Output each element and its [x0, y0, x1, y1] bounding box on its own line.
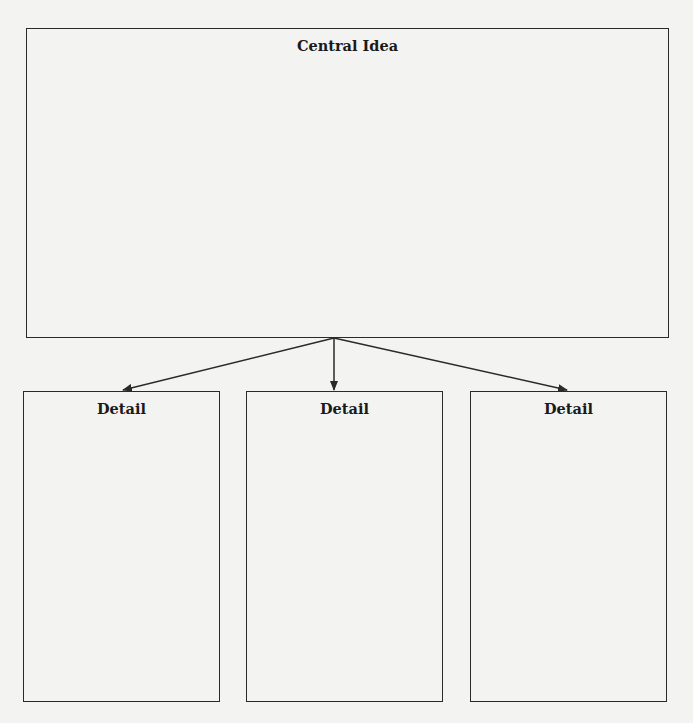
detail-box-1: Detail [23, 391, 220, 702]
detail-box-2: Detail [246, 391, 443, 702]
detail-box-3: Detail [470, 391, 667, 702]
arrow-to-detail-1 [123, 338, 334, 390]
detail-title-2: Detail [247, 400, 442, 417]
detail-title-1: Detail [24, 400, 219, 417]
arrow-to-detail-3 [334, 338, 567, 390]
detail-title-3: Detail [471, 400, 666, 417]
